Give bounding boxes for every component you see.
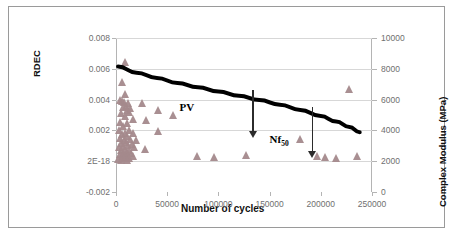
figure-frame: RDEC Complex Modulus (MPa) Number of cyc…	[8, 6, 445, 228]
pv-label: PV	[179, 101, 194, 113]
y-axis-right-tick	[372, 100, 377, 101]
y-axis-left-tick-label: 2E-18	[56, 157, 110, 166]
x-axis-tick	[321, 192, 322, 196]
nf50-label: Nf50	[270, 133, 289, 148]
y-axis-right-tick-label: 4000	[381, 126, 400, 135]
y-axis-right-tick-label: 0	[381, 188, 386, 197]
x-axis-tick-label: 250000	[342, 200, 402, 209]
y-axis-right-tick	[372, 38, 377, 39]
y-axis-right-tick	[372, 161, 377, 162]
chart-figure: RDEC Complex Modulus (MPa) Number of cyc…	[0, 0, 461, 238]
y-axis-right-tick-label: 8000	[381, 65, 400, 74]
nf50-arrow-head	[308, 151, 316, 158]
y-axis-right-tick-label: 6000	[381, 96, 400, 105]
y-axis-right-tick-label: 2000	[381, 157, 400, 166]
y-axis-left-title: RDEC	[31, 50, 42, 77]
nf50-arrow-shaft	[312, 107, 314, 151]
x-axis-tick	[116, 192, 117, 196]
trend-line	[116, 38, 372, 192]
y-axis-left-tick-label: 0.004	[56, 96, 110, 105]
nf50-label-text: Nf	[270, 133, 282, 145]
x-axis-tick	[167, 192, 168, 196]
pv-arrow-head	[249, 131, 257, 138]
y-axis-right-tick	[372, 130, 377, 131]
y-axis-left-tick-label: 0.002	[56, 126, 110, 135]
nf50-label-subscript: 50	[281, 139, 289, 148]
x-axis-tick	[372, 192, 373, 196]
y-axis-right-tick	[372, 69, 377, 70]
y-axis-left-tick-label: 0.008	[56, 34, 110, 43]
pv-arrow-shaft	[252, 90, 254, 132]
y-axis-left-tick-label: -0.002	[56, 188, 110, 197]
x-axis-tick	[218, 192, 219, 196]
pv-label-text: PV	[179, 101, 194, 113]
y-axis-left-tick-label: 0.006	[56, 65, 110, 74]
x-axis-tick	[270, 192, 271, 196]
y-axis-right-title: Complex Modulus (MPa)	[437, 97, 448, 207]
y-axis-right-tick-label: 10000	[381, 34, 405, 43]
